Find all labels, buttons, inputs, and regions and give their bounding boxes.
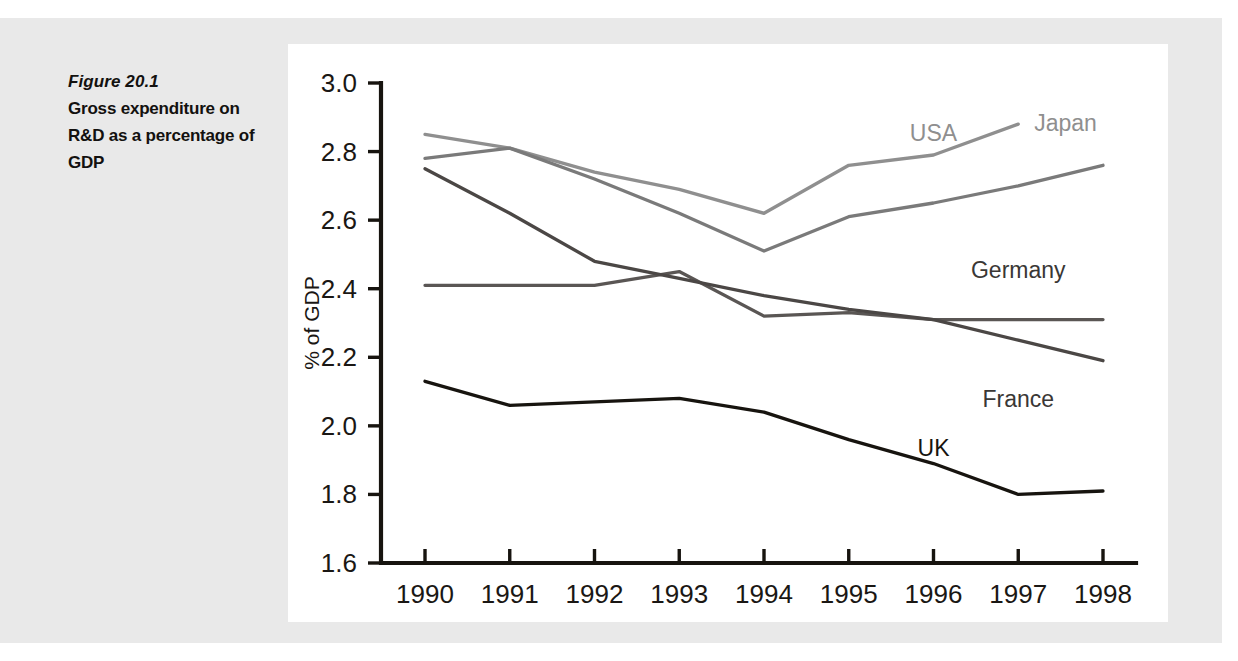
y-tick-label: 1.8 bbox=[321, 479, 357, 509]
y-axis-title-text: % of GDP bbox=[300, 276, 323, 369]
figure-number: Figure 20.1 bbox=[68, 68, 273, 95]
chart-svg: 3.02.82.62.42.22.01.81.6 199019911992199… bbox=[288, 44, 1168, 622]
series-label-japan: Japan bbox=[1034, 110, 1097, 136]
y-tick-label: 1.6 bbox=[321, 548, 357, 578]
y-tick-label: 2.2 bbox=[321, 342, 357, 372]
x-tick-label: 1994 bbox=[735, 579, 793, 609]
x-tick-label: 1997 bbox=[989, 579, 1047, 609]
y-tick-label: 3.0 bbox=[321, 68, 357, 98]
x-tick-label: 1991 bbox=[481, 579, 539, 609]
figure-title: Gross expenditure on R&D as a percentage… bbox=[68, 95, 273, 176]
y-axis-tick-labels: 3.02.82.62.42.22.01.81.6 bbox=[321, 68, 357, 578]
x-tick-label: 1998 bbox=[1074, 579, 1132, 609]
series-label-france: France bbox=[982, 386, 1054, 412]
y-tick-label: 2.6 bbox=[321, 205, 357, 235]
x-tick-label: 1996 bbox=[905, 579, 963, 609]
figure-caption: Figure 20.1 Gross expenditure on R&D as … bbox=[68, 68, 273, 176]
x-tick-label: 1995 bbox=[820, 579, 878, 609]
axis-lines bbox=[381, 83, 1136, 563]
x-tick-label: 1992 bbox=[566, 579, 624, 609]
series-line-usa bbox=[425, 148, 1103, 251]
page-right-margin bbox=[1222, 0, 1238, 661]
series-labels: JapanUSAGermanyFranceUK bbox=[910, 110, 1097, 461]
y-axis-title: % of GDP bbox=[300, 276, 323, 369]
x-tick-label: 1993 bbox=[650, 579, 708, 609]
y-tick-label: 2.4 bbox=[321, 274, 357, 304]
series-label-germany: Germany bbox=[971, 257, 1066, 283]
chart-panel: 3.02.82.62.42.22.01.81.6 199019911992199… bbox=[288, 44, 1168, 622]
series-label-usa: USA bbox=[910, 120, 958, 146]
x-axis-tick-labels: 199019911992199319941995199619971998 bbox=[396, 579, 1132, 609]
y-tick-label: 2.0 bbox=[321, 411, 357, 441]
series-label-uk: UK bbox=[918, 435, 951, 461]
line-chart: 3.02.82.62.42.22.01.81.6 199019911992199… bbox=[288, 44, 1168, 622]
series-lines bbox=[425, 124, 1103, 494]
y-tick-label: 2.8 bbox=[321, 137, 357, 167]
figure-page: Figure 20.1 Gross expenditure on R&D as … bbox=[0, 0, 1238, 661]
x-tick-label: 1990 bbox=[396, 579, 454, 609]
